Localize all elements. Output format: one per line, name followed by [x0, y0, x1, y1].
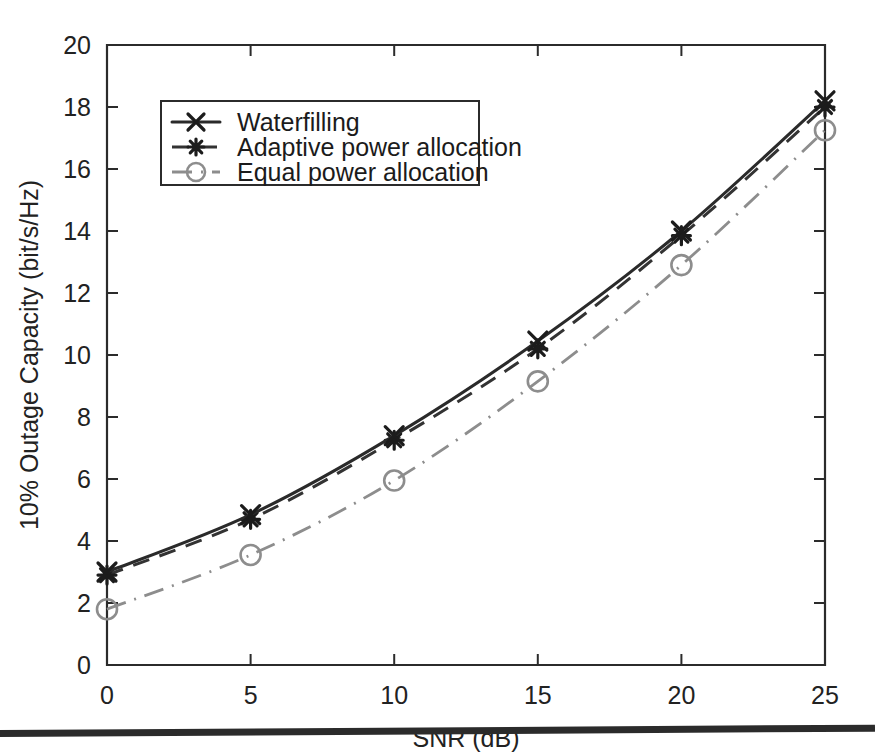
y-axis-tick-label: 18	[63, 93, 91, 121]
chart-figure: 024681012141618200510152025SNR (dB)10% O…	[0, 0, 875, 753]
y-axis-tick-label: 14	[63, 217, 91, 245]
x-axis-tick-label: 0	[100, 681, 114, 709]
y-axis-tick-label: 2	[77, 589, 91, 617]
star-marker-icon	[188, 139, 204, 155]
y-axis-tick-label: 16	[63, 155, 91, 183]
y-axis-tick-label: 20	[63, 31, 91, 59]
y-axis-tick-label: 12	[63, 279, 91, 307]
x-axis-tick-label: 10	[380, 681, 408, 709]
y-axis-tick-label: 6	[77, 465, 91, 493]
y-axis-tick-label: 4	[77, 527, 91, 555]
x-axis-tick-label: 25	[811, 681, 839, 709]
y-axis-title: 10% Outage Capacity (bit/s/Hz)	[15, 180, 43, 530]
data-point-marker	[241, 545, 261, 565]
legend-label-0: Waterfilling	[237, 108, 360, 136]
y-axis-tick-label: 8	[77, 403, 91, 431]
data-point-marker	[384, 471, 404, 491]
y-axis-tick-label: 10	[63, 341, 91, 369]
x-axis-tick-label: 5	[244, 681, 258, 709]
line-chart-canvas: 024681012141618200510152025SNR (dB)10% O…	[0, 0, 875, 753]
legend-label-1: Adaptive power allocation	[237, 133, 522, 161]
x-axis-tick-label: 15	[524, 681, 552, 709]
y-axis-tick-label: 0	[77, 651, 91, 679]
data-point-marker	[671, 255, 691, 275]
legend-label-2: Equal power allocation	[237, 158, 489, 186]
x-axis-tick-label: 20	[667, 681, 695, 709]
series-line-2	[107, 130, 825, 609]
